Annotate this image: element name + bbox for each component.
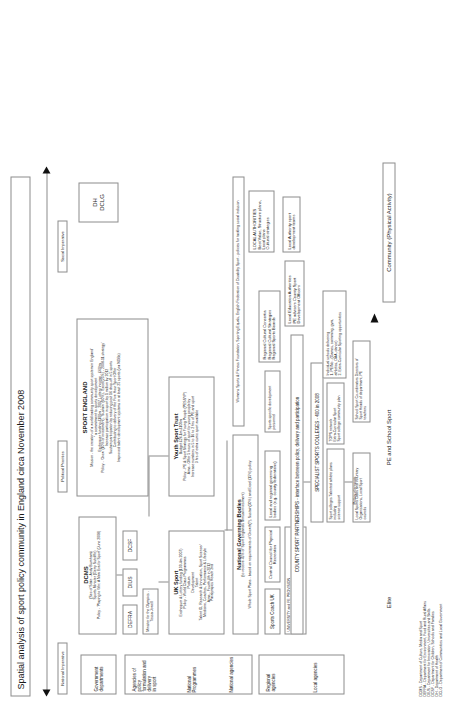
bottom-axis-arrow xyxy=(370,312,379,322)
connector-se-down xyxy=(148,455,168,456)
axis-label-elite: Elite xyxy=(382,572,395,632)
connector-csp-down xyxy=(303,481,310,482)
connector-se-yst xyxy=(148,456,149,516)
box-specialist-sports-colleges: SPECIALIST SPORTS COLLEGES - 400 in 2008 xyxy=(310,362,323,522)
connector-dcms-uksport xyxy=(158,581,168,582)
row-label-national-programmes: National Programmes xyxy=(186,652,196,692)
box-sport-england: SPORT ENGLAND Mission - the creation of … xyxy=(76,318,148,496)
box-ccpr: Central Council for Physical Recreation xyxy=(264,526,280,582)
key-dh: DH - Department of Health xyxy=(434,436,438,696)
box-la-sport-development: Local Authority sport development teams xyxy=(282,196,300,252)
box-youth-sport-trust: Youth Sport Trust Budget £26.1m £100m Po… xyxy=(168,376,214,496)
box-national-governing-bodies: National Governing Bodies (to receive 45… xyxy=(232,434,258,634)
box-womens-sport-foundation: Womens Sports & Fitness Foundation, Spor… xyxy=(232,176,244,426)
box-local-authorities: LOCAL AUTHORITIES Best Value, Structure … xyxy=(248,190,274,252)
ngb-line-0: (to receive 45% of Sport England's annua… xyxy=(241,492,245,576)
sport-england-title: SPORT ENGLAND xyxy=(81,381,88,433)
box-dius: DIUS xyxy=(122,568,137,596)
uks-line-8: Paralympics Reach 2nd xyxy=(210,564,214,601)
box-dh-dclg: DH DCLG xyxy=(78,182,118,222)
se-line-7: Improved talent development systems in a… xyxy=(117,353,121,461)
axis-label-pe-school-sport: PE and School Sport xyxy=(382,382,395,492)
connector-colleges-down xyxy=(344,481,352,482)
box-school-sport-coordinators: School Sport Co-ordinators Directors of … xyxy=(352,340,370,422)
page-title: Spatial analysis of sport policy communi… xyxy=(10,176,30,696)
box-local-education-authorities: Local Education Authorities PE advisers … xyxy=(284,260,304,326)
yst-line-4: 3 hrs of extra curric sport available xyxy=(195,409,199,463)
diagram-rotated-content: Spatial analysis of sport policy communi… xyxy=(0,0,463,722)
row-label-national-agencies: National agencies xyxy=(228,648,233,692)
imperative-axis xyxy=(42,166,51,696)
box-defra: DEFRA xyxy=(122,604,137,634)
key-dius: DIUS - Department for Innovation, Univer… xyxy=(426,436,430,696)
box-sports-coach-uk: Sports Coach UK xyxy=(264,588,280,634)
box-uk-sport: UK Sport Exchequer & Lottery funding (10… xyxy=(168,530,224,634)
axis-label-community: Community (Physical Activity) xyxy=(382,162,395,302)
box-college-mid: TOPS network Extra-Curricular Sport Spor… xyxy=(326,382,344,444)
box-regional-cultural: Regional Cultural Consortia Regional Cul… xyxy=(258,290,280,362)
box-local-regional-gb: Local and regional governing bodies (e.g… xyxy=(264,450,280,520)
axis-label-social-imperative: Social Imperative xyxy=(57,220,67,272)
key-dcsf: DCSF - Department for Children, Schools … xyxy=(430,436,434,696)
connector-ngb-bar xyxy=(226,440,227,530)
box-college-right: Individual schools delivering 1. PE/No -… xyxy=(322,290,346,378)
row-label-local-agencies: Local agencies xyxy=(312,652,317,692)
box-dcsf: DCSF xyxy=(122,530,137,560)
row-label-government-departments: Government departments xyxy=(80,654,116,694)
box-sports-specific-development: Sports specific development personnel xyxy=(264,370,280,432)
dclg-label: DCLG xyxy=(98,194,105,211)
key-dclg: DCLG - Department of Communities and Loc… xyxy=(438,436,442,696)
dcms-policy: Policy - 'Playing to Win: A New Era for … xyxy=(97,530,101,619)
diagram-canvas: Spatial analysis of sport policy communi… xyxy=(0,0,463,722)
dh-label: DH xyxy=(91,198,98,207)
box-college-left: Sport colleges Talented athlete plans in… xyxy=(326,448,344,522)
yst-title: Youth Sport Trust xyxy=(172,413,178,459)
box-dcms: DCMS (Sec of State - Andy Burnham) Sport… xyxy=(78,516,116,634)
ngb-line-1: Whole Sport Plans - based on requirement… xyxy=(248,460,252,608)
key-defra: DEFRA - Department for Environment, Food… xyxy=(422,436,426,696)
row-label-regional-local: Regional agencies xyxy=(258,654,344,694)
key-dcms: DCMS - Department of Culture, Media and … xyxy=(418,436,422,696)
axis-label-national-imperative: National Imperative xyxy=(57,642,67,694)
key-list: DCMS - Department of Culture, Media and … xyxy=(418,436,442,696)
box-olympics-minister: Minister for the Olympics - Tessa Jowell xyxy=(142,588,158,634)
connector-ngb-down xyxy=(224,529,232,530)
connector-dcms-down xyxy=(116,574,122,575)
uk-sport-title: UK Sport xyxy=(172,570,178,594)
label-policy-elements: Policy elements xyxy=(352,476,357,504)
box-county-sport-partnerships: COUNTY SPORT PARTNERSHIPS - interface be… xyxy=(290,334,303,634)
axis-label-political-priorities: Political Priorities xyxy=(57,440,67,492)
